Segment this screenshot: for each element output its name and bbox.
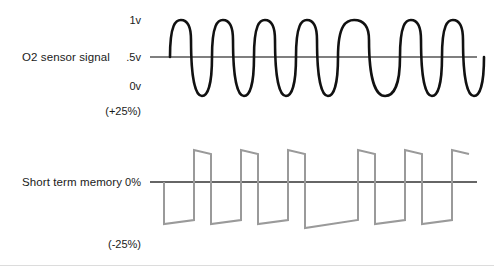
axis-annotation-minus-25-percent: (-25%)	[89, 238, 141, 250]
o2-sensor-waveform-path	[170, 20, 484, 96]
axis-tick-0-percent: 0%	[97, 176, 141, 188]
axis-annotation-plus-25-percent: (+25%)	[89, 105, 141, 117]
o2-sensor-signal-plot	[150, 10, 480, 105]
short-term-memory-waveform-path	[164, 150, 469, 228]
axis-tick-0v: 0v	[97, 80, 141, 92]
short-term-memory-plot	[150, 136, 480, 236]
diagram-canvas: O2 sensor signal Short term memory 1v .5…	[0, 0, 494, 266]
axis-tick-1v: 1v	[97, 14, 141, 26]
axis-tick-half-v: .5v	[97, 51, 141, 63]
